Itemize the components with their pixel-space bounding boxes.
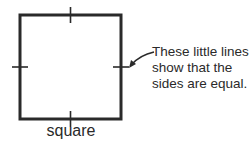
annotation-line: show that the bbox=[152, 60, 249, 76]
diagram: square These little lines show that the … bbox=[0, 0, 251, 153]
square-shape bbox=[20, 15, 121, 119]
annotation-line: These little lines bbox=[152, 44, 249, 60]
annotation-line: sides are equal. bbox=[152, 76, 249, 92]
annotation-text: These little lines show that the sides a… bbox=[152, 44, 249, 92]
shape-label: square bbox=[40, 122, 102, 140]
